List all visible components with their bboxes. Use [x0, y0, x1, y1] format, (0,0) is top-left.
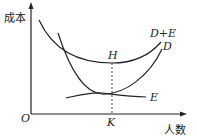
x-axis-label: 人数 — [164, 124, 186, 137]
curve-e — [66, 93, 146, 98]
origin-label: O — [21, 112, 30, 125]
curve-e-label: E — [149, 91, 158, 104]
y-axis-label: 成本 — [4, 11, 26, 25]
curve-d-plus-e-label: D+E — [149, 27, 176, 40]
curve-d-plus-e — [39, 20, 161, 63]
point-h-label: H — [107, 49, 118, 62]
cost-diagram: 成本 人数 O D+E D E H K — [0, 0, 197, 140]
point-k-label: K — [106, 116, 116, 129]
x-axis-arrow-icon — [180, 112, 187, 117]
curve-d-label: D — [162, 40, 172, 53]
y-axis-arrow-icon — [29, 2, 34, 9]
